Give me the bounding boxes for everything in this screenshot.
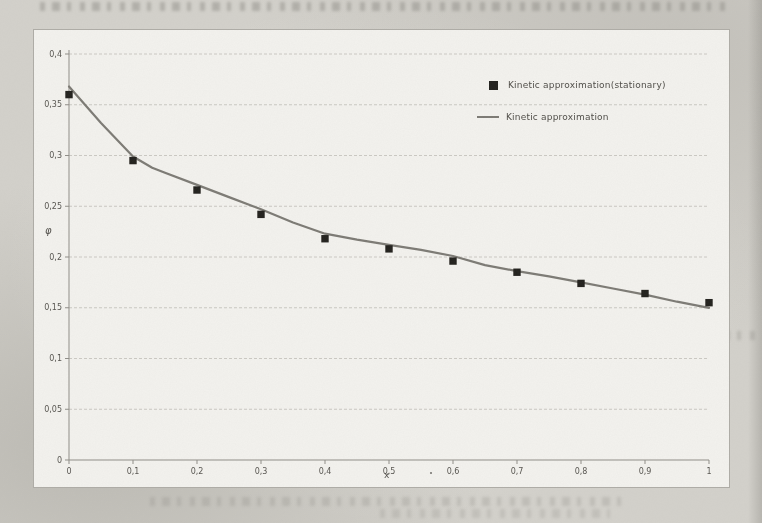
scan-speck bbox=[430, 472, 432, 474]
x-tick-label: 1 bbox=[706, 467, 711, 476]
bleed-through-smudge bbox=[40, 2, 730, 11]
data-point-square bbox=[65, 91, 72, 98]
data-point-square bbox=[257, 211, 264, 218]
bleed-through-smudge bbox=[380, 509, 610, 518]
y-tick-label: 0,15 bbox=[44, 303, 62, 312]
plot-svg: 00,050,10,150,20,250,30,350,400,10,20,30… bbox=[34, 30, 731, 489]
legend-label-stationary: Kinetic approximation(stationary) bbox=[508, 80, 666, 90]
x-tick-label: 0,7 bbox=[511, 467, 524, 476]
bleed-through-smudge bbox=[150, 497, 630, 506]
x-tick-label: 0,4 bbox=[319, 467, 332, 476]
data-point-square bbox=[449, 257, 456, 264]
data-point-square bbox=[641, 290, 648, 297]
x-tick-label: 0,3 bbox=[255, 467, 268, 476]
x-tick-label: 0,8 bbox=[575, 467, 588, 476]
data-point-square bbox=[193, 186, 200, 193]
line-marker-icon bbox=[477, 116, 499, 118]
legend-item-stationary: Kinetic approximation(stationary) bbox=[489, 80, 666, 90]
kinetic-approximation-line bbox=[69, 87, 709, 308]
x-axis-title: x bbox=[384, 470, 389, 480]
y-axis-title: φ bbox=[45, 225, 52, 236]
data-point-square bbox=[321, 235, 328, 242]
y-tick-label: 0,35 bbox=[44, 100, 62, 109]
y-tick-label: 0,3 bbox=[49, 151, 62, 160]
y-tick-label: 0,25 bbox=[44, 202, 62, 211]
chart-area: 00,050,10,150,20,250,30,350,400,10,20,30… bbox=[33, 29, 730, 488]
scanned-page: 00,050,10,150,20,250,30,350,400,10,20,30… bbox=[0, 0, 762, 523]
legend-item-line: Kinetic approximation bbox=[477, 112, 609, 122]
x-tick-label: 0,9 bbox=[639, 467, 652, 476]
data-point-square bbox=[705, 299, 712, 306]
data-point-square bbox=[385, 245, 392, 252]
y-tick-label: 0,1 bbox=[49, 354, 62, 363]
data-point-square bbox=[129, 157, 136, 164]
data-point-square bbox=[577, 280, 584, 287]
y-tick-label: 0,2 bbox=[49, 253, 62, 262]
x-tick-label: 0 bbox=[66, 467, 71, 476]
y-tick-label: 0,4 bbox=[49, 50, 62, 59]
x-tick-label: 0,6 bbox=[447, 467, 460, 476]
x-tick-label: 0,1 bbox=[127, 467, 140, 476]
legend-label-line: Kinetic approximation bbox=[506, 112, 609, 122]
square-marker-icon bbox=[489, 81, 498, 90]
y-tick-label: 0 bbox=[57, 456, 62, 465]
x-tick-label: 0,2 bbox=[191, 467, 204, 476]
y-tick-label: 0,05 bbox=[44, 405, 62, 414]
data-point-square bbox=[513, 269, 520, 276]
